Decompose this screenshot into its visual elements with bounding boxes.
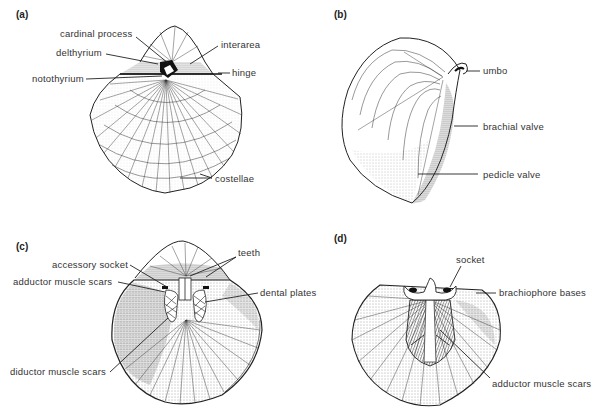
panel-d: (d) socket xyxy=(334,233,591,406)
label-adductor-muscle-scars-c: adductor muscle scars xyxy=(13,276,112,287)
panel-b: (b) umbo brachial valv xyxy=(334,9,544,203)
label-cardinal-process: cardinal process xyxy=(60,28,132,39)
label-socket: socket xyxy=(456,254,485,265)
shell-b-drawing xyxy=(342,38,467,203)
panel-c-label: (c) xyxy=(16,241,28,252)
label-brachial-valve: brachial valve xyxy=(483,121,544,132)
label-hinge: hinge xyxy=(232,67,256,78)
panel-a: (a) xyxy=(16,9,261,193)
label-pedicle-valve: pedicle valve xyxy=(483,169,541,180)
shell-c-drawing xyxy=(112,241,262,404)
label-teeth: teeth xyxy=(238,247,260,258)
label-interarea: interarea xyxy=(221,39,261,50)
label-brachiophore-bases: brachiophore bases xyxy=(499,287,586,298)
panel-a-label: (a) xyxy=(16,9,28,20)
panel-c: (c) xyxy=(10,241,317,404)
panel-d-label: (d) xyxy=(334,233,347,244)
panel-b-label: (b) xyxy=(334,9,347,20)
label-adductor-muscle-scars-d: adductor muscle scars xyxy=(492,378,591,389)
label-delthyrium: delthyrium xyxy=(56,47,102,58)
brachiopod-anatomy-figure: (a) xyxy=(0,0,600,419)
label-notothyrium: notothyrium xyxy=(32,73,84,84)
label-dental-plates: dental plates xyxy=(260,287,317,298)
label-umbo: umbo xyxy=(483,65,508,76)
shell-a-drawing xyxy=(90,26,242,193)
label-diductor-muscle-scars: diductor muscle scars xyxy=(10,366,106,377)
label-accessory-socket: accessory socket xyxy=(52,259,128,270)
shell-d-drawing xyxy=(352,278,500,406)
label-costellae: costellae xyxy=(215,173,254,184)
